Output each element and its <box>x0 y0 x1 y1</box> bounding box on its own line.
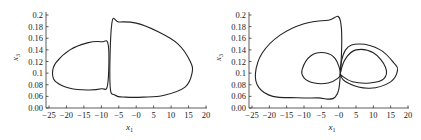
x-tick-label: 20 <box>404 110 413 120</box>
y-tick-label: 0.08 <box>28 80 43 90</box>
trajectory-curves <box>255 16 397 99</box>
trajectory-right-lobe <box>110 18 193 97</box>
y-tick-label: 0.12 <box>28 57 43 67</box>
x-tick-label: 20 <box>202 110 211 120</box>
x-tick-label: 10 <box>167 110 176 120</box>
y-tick-label: 0.2 <box>32 10 43 20</box>
x-tick-label: −10 <box>95 110 108 120</box>
y-tick-label: 0.06 <box>28 91 43 101</box>
x-tick-label: 10 <box>369 110 378 120</box>
y-tick-label: 0.1 <box>235 68 246 78</box>
right-phase-plot: 0.000.060.080.10.120.140.160.180.2−25−20… <box>213 10 412 133</box>
y-tick-label: 0.16 <box>28 33 43 43</box>
y-tick-label: 0.12 <box>231 57 246 67</box>
x-tick-label: −5 <box>114 110 123 120</box>
x-tick-label: −25 <box>245 110 258 120</box>
y-tick-label: 0.14 <box>231 45 247 55</box>
x-tick-label: −15 <box>280 110 293 120</box>
y-tick-label: 0.00 <box>28 103 43 113</box>
x-tick-label: 5 <box>354 110 358 120</box>
y-tick-label: 0.08 <box>231 80 246 90</box>
x-tick-label: −25 <box>42 110 55 120</box>
y-tick-label: 0.00 <box>231 103 246 113</box>
trajectory-inner-left-loop <box>302 53 341 84</box>
y-axis-label: x3 <box>10 54 21 62</box>
x-tick-label: −5 <box>317 110 326 120</box>
x-tick-label: −0 <box>334 110 343 120</box>
trajectory-curves <box>52 18 192 97</box>
y-tick-label: 0.18 <box>28 22 43 32</box>
y-tick-label: 0.1 <box>32 68 43 78</box>
axes: 0.000.060.080.10.120.140.160.180.2−25−20… <box>213 10 412 133</box>
y-tick-label: 0.2 <box>235 10 246 20</box>
trajectory-inner-right-loop <box>340 49 386 83</box>
x-tick-label: −10 <box>297 110 310 120</box>
x-axis-label: x1 <box>125 122 133 133</box>
y-tick-label: 0.14 <box>28 45 44 55</box>
x-tick-label: −20 <box>60 110 73 120</box>
x-axis-label: x1 <box>328 122 336 133</box>
x-tick-label: 15 <box>386 110 395 120</box>
y-tick-label: 0.06 <box>231 91 246 101</box>
x-tick-label: −0 <box>132 110 141 120</box>
x-tick-label: −20 <box>263 110 276 120</box>
y-tick-label: 0.18 <box>231 22 246 32</box>
y-tick-label: 0.16 <box>231 33 246 43</box>
x-tick-label: 15 <box>184 110 193 120</box>
left-phase-plot: 0.000.060.080.10.120.140.160.180.2−25−20… <box>10 10 210 133</box>
x-tick-label: −15 <box>77 110 90 120</box>
x-tick-label: 5 <box>152 110 156 120</box>
y-axis-label: x3 <box>213 54 224 62</box>
phase-portrait-figure: 0.000.060.080.10.120.140.160.180.2−25−20… <box>0 0 421 140</box>
trajectory-outer-left-loop <box>255 16 341 99</box>
trajectory-left-lobe <box>52 41 108 90</box>
